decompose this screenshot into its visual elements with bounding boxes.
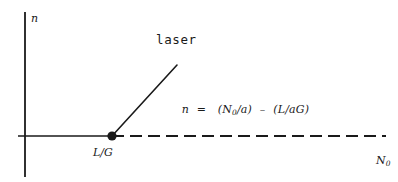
vertical-axis-label: n: [31, 13, 38, 24]
figure-canvas: n laser n = (N0/a) – (L/aG) L/G N0: [0, 0, 398, 182]
laser-region-label: laser: [156, 34, 197, 47]
equation-lhs: n: [182, 103, 189, 116]
equation-equals-sign: =: [197, 103, 206, 116]
horizontal-axis-label: N0: [362, 144, 390, 179]
horizontal-axis-label-base: N: [376, 154, 386, 167]
equation-term1-denominator: a: [241, 103, 248, 116]
horizontal-axis-label-subscript: 0: [386, 159, 391, 168]
equation-term1-numerator: N: [222, 103, 232, 116]
equation-term2-close-paren: ): [305, 103, 310, 116]
equation-term2-denominator: aG: [289, 103, 305, 116]
laser-equation: n = (N0/a) – (L/aG): [167, 93, 309, 128]
threshold-point-dot: [107, 131, 116, 140]
diagram-svg: [0, 0, 398, 182]
threshold-point-label: L/G: [93, 147, 113, 158]
